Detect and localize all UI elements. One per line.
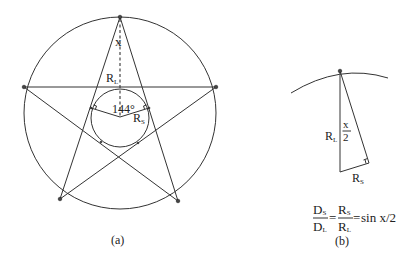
tangent-dot-lower-right [137,142,139,144]
apex-angle-label: x [115,34,122,49]
figure-b: x 2 RL RS DS DL = RS RL = sin x/2 (b) [291,69,396,248]
tangent-dot-left [90,107,92,109]
right-angle-marker-b-b [364,159,368,161]
tangent-dot-lower-left [100,141,102,143]
large-radius-label-b: RL [325,129,337,144]
formula-rs: RS [338,202,351,217]
ratio-formula: DS DL = RS RL = sin x/2 [313,202,396,234]
half-angle-numerator: x [343,118,349,130]
formula-rhs: sin x/2 [361,210,396,225]
apex-dot [338,69,342,73]
vertex-dot-left [22,85,26,89]
figure-a: x RL 144° RS (a) [22,15,218,247]
caption-a: (a) [111,233,124,247]
formula-dl: DL [313,219,327,234]
half-angle-denominator: 2 [343,131,349,143]
tangent-dot-right [148,107,150,109]
large-radius-label: RL [106,71,118,86]
vertex-dot-top [118,15,122,19]
small-radius-label: RS [133,111,145,126]
small-radius-label-b: RS [352,171,364,186]
vertex-dot-right [214,85,218,89]
formula-equals-2: = [353,210,360,225]
caption-b: (b) [335,234,349,248]
formula-ds: DS [313,202,326,217]
vertex-dot-bottom-right [176,199,180,203]
formula-rl: RL [338,219,351,234]
right-angle-marker-b-a [365,160,366,164]
central-angle-label: 144° [112,102,135,116]
pentagram-diagram: x RL 144° RS (a) x 2 RL RS DS DL = RS RL… [0,0,414,261]
formula-equals-1: = [329,210,336,225]
vertex-dot-bottom-left [58,197,62,201]
